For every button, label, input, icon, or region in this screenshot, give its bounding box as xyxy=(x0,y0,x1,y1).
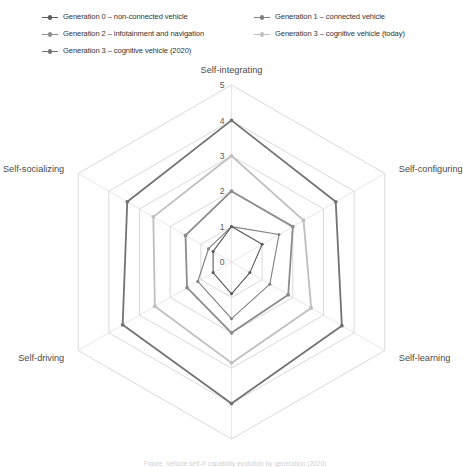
legend-item[interactable]: Generation 3 – cognitive vehicle (today) xyxy=(254,26,442,43)
legend-item-label: Generation 3 – cognitive vehicle (today) xyxy=(275,30,405,38)
radar-data-point xyxy=(248,271,251,274)
radar-data-point xyxy=(278,233,281,236)
radar-data-point xyxy=(268,283,271,286)
radar-data-point xyxy=(340,324,344,328)
radar-data-point xyxy=(230,331,234,335)
radar-data-point xyxy=(212,271,215,274)
radar-series-outline xyxy=(198,227,279,319)
legend-item[interactable]: Generation 3 – cognitive vehicle (2020) xyxy=(42,43,191,60)
radar-data-point xyxy=(302,219,306,223)
radar-data-point xyxy=(286,293,290,297)
radar-axis-label: Self-learning xyxy=(399,353,451,363)
radial-tick-label: 5 xyxy=(220,80,225,90)
radar-data-point xyxy=(291,225,295,229)
legend-marker-icon xyxy=(42,47,58,56)
radar-data-point xyxy=(230,154,234,158)
legend-item-label: Generation 3 – cognitive vehicle (2020) xyxy=(63,47,191,55)
legend-marker-icon xyxy=(42,13,58,22)
radial-tick-label: 1 xyxy=(220,222,225,232)
radar-data-point xyxy=(334,200,338,204)
radar-data-point xyxy=(196,280,199,283)
radar-data-point xyxy=(230,292,233,295)
radar-series-2[interactable] xyxy=(184,189,295,334)
radar-series-outline xyxy=(123,120,342,403)
radar-data-point xyxy=(121,323,125,327)
radial-tick-label: 3 xyxy=(220,151,225,161)
radar-data-point xyxy=(230,189,234,193)
radar-data-point xyxy=(230,361,234,365)
legend-item-label: Generation 2 – infotainment and navigati… xyxy=(63,30,204,38)
radial-tick-label: 0 xyxy=(220,257,225,267)
radar-axis-label: Self-configuring xyxy=(399,164,463,174)
radial-tick-label: 4 xyxy=(220,116,225,126)
radar-chart-figure: Generation 0 – non-connected vehicleGene… xyxy=(0,0,463,467)
radar-data-point xyxy=(151,215,155,219)
radar-data-point xyxy=(207,247,210,250)
radar-data-point xyxy=(230,402,234,406)
radar-data-point xyxy=(309,306,313,310)
radar-axis-label: Self-driving xyxy=(18,353,64,363)
radar-axis-label: Self-socializing xyxy=(3,164,64,174)
legend-marker-icon xyxy=(254,13,270,22)
radar-data-point xyxy=(212,250,215,253)
legend-item[interactable]: Generation 0 – non-connected vehicle xyxy=(42,9,254,26)
radar-plot-area: 012345Self-integratingSelf-configuringSe… xyxy=(0,62,463,447)
legend-item[interactable]: Generation 1 – connected vehicle xyxy=(254,9,442,26)
radar-svg: 012345Self-integratingSelf-configuringSe… xyxy=(0,62,463,447)
radar-data-point xyxy=(230,119,234,123)
legend-item-label: Generation 0 – non-connected vehicle xyxy=(63,13,188,21)
radar-data-point xyxy=(230,317,233,320)
radar-data-point xyxy=(153,304,157,308)
legend-marker-icon xyxy=(254,30,270,39)
radar-axis-label: Self-integrating xyxy=(201,65,263,75)
legend-item[interactable]: Generation 2 – infotainment and navigati… xyxy=(42,26,254,43)
chart-legend: Generation 0 – non-connected vehicleGene… xyxy=(42,9,442,60)
radar-data-point xyxy=(185,286,189,290)
radar-axis-spoke xyxy=(232,174,385,263)
legend-item-label: Generation 1 – connected vehicle xyxy=(275,13,385,21)
radar-data-point xyxy=(230,225,233,228)
legend-marker-icon xyxy=(42,30,58,39)
radial-tick-label: 2 xyxy=(220,186,225,196)
radar-data-point xyxy=(184,234,188,238)
radar-data-point xyxy=(261,243,264,246)
figure-caption: Figure: Vehicle self-X capability evolut… xyxy=(30,460,440,467)
radar-data-point xyxy=(125,200,129,204)
